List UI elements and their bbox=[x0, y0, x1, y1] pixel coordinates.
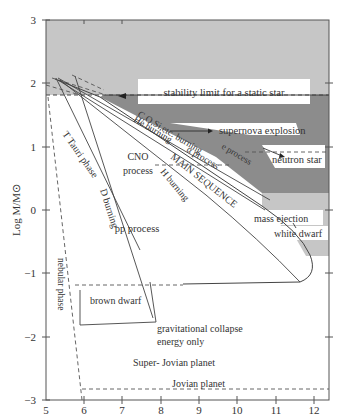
y-tick-label: 1 bbox=[31, 141, 37, 153]
nebular-phase-label: nebular phase bbox=[56, 258, 66, 311]
neutron-star-label: neutron star bbox=[272, 154, 322, 165]
cno-label-line2: process bbox=[123, 165, 153, 176]
y-tick-label: 2 bbox=[31, 77, 37, 89]
x-tick-label: 6 bbox=[81, 404, 87, 416]
supernova-label: supernova explosion bbox=[219, 125, 306, 136]
y-tick-label: −1 bbox=[24, 267, 36, 279]
y-axis-label: Log M/M⊙ bbox=[10, 184, 22, 236]
x-tick-label: 7 bbox=[119, 404, 125, 416]
x-tick-label: 12 bbox=[309, 404, 320, 416]
cno-label-line1: CNO bbox=[127, 151, 148, 162]
x-tick-label: 10 bbox=[232, 404, 244, 416]
y-tick-label: −3 bbox=[24, 394, 36, 406]
y-tick-label: −2 bbox=[24, 331, 36, 343]
stability-label: stability limit for a static star bbox=[163, 87, 285, 98]
x-tick-label: 11 bbox=[271, 404, 282, 416]
stellar-evolution-diagram: 3 2 1 0 −1 −2 −3 5 6 7 8 9 10 11 12 Log … bbox=[0, 0, 345, 420]
grav-collapse-label-line2: energy only bbox=[157, 336, 204, 347]
mass-ejection-label: mass ejection bbox=[254, 213, 308, 224]
x-tick-label: 8 bbox=[158, 404, 164, 416]
white-dwarf-label: white dwarf bbox=[274, 228, 323, 239]
x-tick-label: 5 bbox=[43, 404, 49, 416]
brown-dwarf-label: brown dwarf bbox=[90, 295, 142, 306]
grav-collapse-label-line1: gravitational collapse bbox=[157, 323, 243, 334]
x-tick-label: 9 bbox=[196, 404, 202, 416]
y-tick-label: 0 bbox=[31, 204, 37, 216]
jovian-label: Jovian planet bbox=[172, 378, 225, 389]
y-tick-label: 3 bbox=[31, 14, 37, 26]
super-jovian-label: Super- Jovian planet bbox=[133, 357, 215, 368]
